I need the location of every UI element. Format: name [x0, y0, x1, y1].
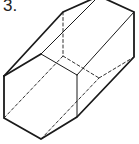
hidden-edges [4, 12, 134, 139]
outline [4, 0, 134, 139]
hexagonal-prism-diagram [0, 0, 139, 144]
visible-edges [41, 0, 134, 117]
